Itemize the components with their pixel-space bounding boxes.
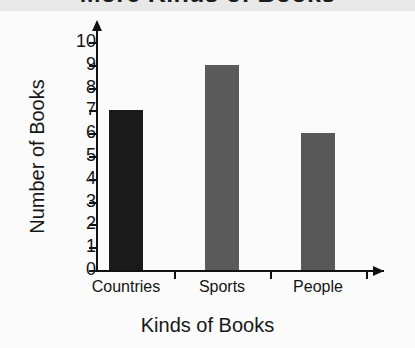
x-axis-line bbox=[96, 270, 384, 272]
chart-title: More Kinds of Books bbox=[0, 0, 415, 8]
y-tick-label: 2 bbox=[86, 213, 96, 234]
bar-sports bbox=[205, 65, 239, 270]
y-tick-label: 4 bbox=[86, 168, 96, 189]
y-tick-label: 7 bbox=[86, 99, 96, 120]
y-axis-title: Number of Books bbox=[26, 42, 49, 272]
y-tick-label: 5 bbox=[86, 145, 96, 166]
y-tick-label: 1 bbox=[86, 236, 96, 257]
plot-area: 012345678910 bbox=[96, 18, 396, 272]
y-axis-arrow-icon bbox=[92, 20, 102, 31]
category-label-countries: Countries bbox=[78, 278, 174, 296]
y-tick-label: 6 bbox=[86, 122, 96, 143]
y-tick-label: 0 bbox=[86, 259, 96, 280]
category-label-sports: Sports bbox=[174, 278, 270, 296]
x-axis-title: Kinds of Books bbox=[0, 314, 415, 337]
x-axis-arrow-icon bbox=[373, 266, 384, 276]
y-tick-label: 10 bbox=[76, 31, 96, 52]
y-tick-label: 9 bbox=[86, 54, 96, 75]
category-label-people: People bbox=[270, 278, 366, 296]
y-axis-line bbox=[96, 24, 98, 272]
title-band: More Kinds of Books bbox=[0, 0, 415, 11]
bar-people bbox=[301, 133, 335, 270]
y-tick-label: 3 bbox=[86, 191, 96, 212]
y-tick-label: 8 bbox=[86, 77, 96, 98]
x-tick-mark bbox=[366, 272, 368, 279]
bar-chart-figure: More Kinds of Books Number of Books 0123… bbox=[0, 0, 415, 348]
bar-countries bbox=[109, 110, 143, 270]
